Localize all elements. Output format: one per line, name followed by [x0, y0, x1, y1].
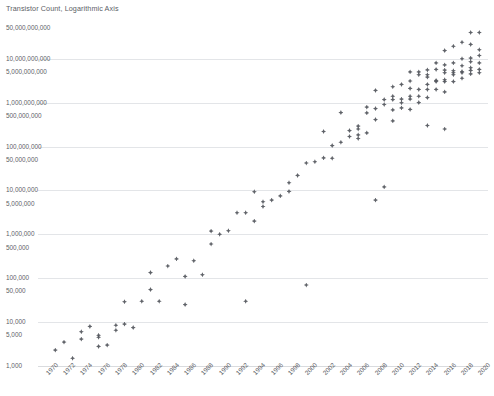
data-point: [131, 325, 136, 330]
data-point: [416, 94, 421, 99]
data-point: [408, 107, 413, 112]
plot-area: [38, 28, 488, 366]
data-point: [96, 344, 101, 349]
data-point: [356, 127, 361, 132]
data-point: [468, 71, 473, 76]
data-point: [434, 60, 439, 65]
data-point: [79, 337, 84, 342]
data-point: [356, 132, 361, 137]
data-point: [460, 70, 465, 75]
data-point: [304, 283, 309, 288]
data-point: [243, 299, 248, 304]
data-point: [113, 323, 118, 328]
data-point: [261, 199, 266, 204]
data-point: [425, 123, 430, 128]
data-point: [235, 210, 240, 215]
data-point: [477, 70, 482, 75]
data-point: [451, 60, 456, 65]
data-point: [62, 340, 67, 345]
y-axis-tick-label: 5,000,000,000: [6, 69, 47, 75]
data-point: [183, 302, 188, 307]
data-point: [269, 198, 274, 203]
data-point: [442, 89, 447, 94]
data-point: [451, 44, 456, 49]
data-point: [425, 75, 430, 80]
gridline: [38, 59, 488, 60]
y-axis-tick-label: 10,000,000: [6, 187, 38, 193]
data-point: [105, 343, 110, 348]
data-point: [416, 87, 421, 92]
data-point: [287, 180, 292, 185]
data-point: [460, 56, 465, 61]
data-point: [200, 272, 205, 277]
data-point: [416, 100, 421, 105]
data-point: [209, 229, 214, 234]
data-point: [434, 79, 439, 84]
chart-root: Transistor Count, Logarithmic Axis 1,000…: [0, 0, 494, 396]
data-point: [460, 76, 465, 81]
data-point: [191, 258, 196, 263]
data-point: [442, 48, 447, 53]
data-point: [434, 87, 439, 92]
data-point: [243, 210, 248, 215]
data-point: [451, 79, 456, 84]
data-point: [468, 59, 473, 64]
y-axis-tick-label: 50,000,000: [6, 157, 38, 163]
data-point: [209, 242, 214, 247]
data-point: [148, 270, 153, 275]
gridline: [38, 234, 488, 235]
data-point: [390, 107, 395, 112]
data-point: [382, 184, 387, 189]
data-point: [226, 228, 231, 233]
data-point: [174, 256, 179, 261]
data-point: [460, 40, 465, 45]
data-point: [373, 106, 378, 111]
data-point: [460, 63, 465, 68]
data-point: [408, 97, 413, 102]
data-point: [468, 30, 473, 35]
data-point: [477, 53, 482, 58]
y-axis-tick-label: 500,000: [6, 245, 29, 251]
data-point: [382, 97, 387, 102]
data-point: [261, 204, 266, 209]
data-point: [87, 324, 92, 329]
data-point: [408, 69, 413, 74]
data-point: [330, 156, 335, 161]
data-point: [425, 95, 430, 100]
data-point: [122, 299, 127, 304]
data-point: [347, 134, 352, 139]
gridline: [38, 147, 488, 148]
data-point: [364, 105, 369, 110]
data-point: [321, 129, 326, 134]
y-axis-tick-label: 1,000,000,000: [6, 100, 47, 106]
data-point: [53, 348, 58, 353]
data-point: [390, 84, 395, 89]
data-point: [416, 72, 421, 77]
data-point: [295, 173, 300, 178]
data-point: [442, 127, 447, 132]
chart-title: Transistor Count, Logarithmic Axis: [6, 4, 119, 13]
data-point: [442, 70, 447, 75]
y-axis-tick-label: 50,000: [6, 288, 26, 294]
data-point: [347, 128, 352, 133]
data-point: [477, 30, 482, 35]
data-point: [442, 62, 447, 67]
data-point: [364, 130, 369, 135]
gridline: [38, 278, 488, 279]
data-point: [477, 47, 482, 52]
data-point: [399, 82, 404, 87]
data-point: [425, 67, 430, 72]
data-point: [373, 198, 378, 203]
data-point: [148, 287, 153, 292]
data-point: [338, 140, 343, 145]
data-point: [321, 155, 326, 160]
y-axis-tick-label: 10,000: [6, 319, 26, 325]
y-axis-tick-label: 100,000,000: [6, 144, 42, 150]
y-axis-tick-label: 10,000,000,000: [6, 56, 50, 62]
data-point: [79, 329, 84, 334]
data-point: [338, 110, 343, 115]
y-axis-tick-label: 5,000,000: [6, 201, 34, 207]
data-point: [278, 193, 283, 198]
data-point: [304, 161, 309, 166]
gridline: [38, 322, 488, 323]
